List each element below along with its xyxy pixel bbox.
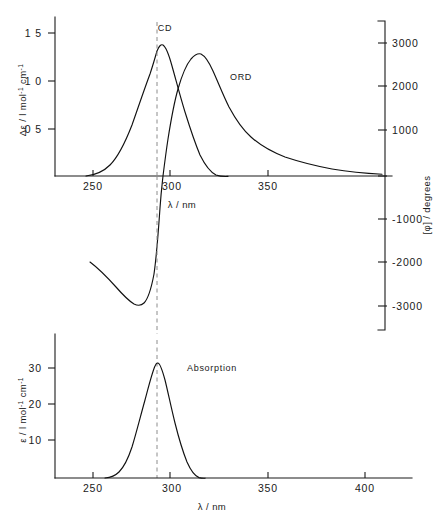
bottom-left-tick-label-10: 10 — [29, 434, 42, 446]
bottom-left-axis-title-main: ε / l mol — [17, 407, 28, 443]
top-x-axis-title: λ / nm — [168, 199, 196, 210]
bottom-left-axis-title-mid: cm — [17, 384, 28, 401]
right-tick-label-neg2000: -2000 — [392, 256, 423, 268]
right-tick-label-2000: 2000 — [392, 80, 419, 92]
ord-curve-label: ORD — [230, 72, 252, 82]
cd-curve-label: CD — [158, 23, 172, 33]
bottom-left-axis-title: ε / l mol-1 cm-1 — [17, 377, 29, 443]
right-tick-label-3000: 3000 — [392, 37, 419, 49]
bottom-x-ticks — [93, 472, 365, 478]
top-left-tick-label-1: 1 5 — [25, 27, 42, 39]
top-left-axis-title: Δε / l mol-1 cm-1 — [17, 64, 29, 136]
cd-ord-panel: 1 5 1 0 0 5 250 300 350 λ / nm Δε / l mo… — [17, 17, 433, 330]
ord-curve — [90, 54, 382, 306]
right-tick-label-1000: 1000 — [392, 124, 419, 136]
top-x-tick-label-350: 350 — [258, 180, 278, 192]
right-tick-label-neg3000: -3000 — [392, 300, 423, 312]
top-left-axis-title-main: Δε / l mol — [17, 94, 28, 137]
top-left-axis-title-mid: cm — [17, 70, 28, 87]
absorption-panel: 30 20 10 250 300 350 400 λ / nm ε / l mo… — [17, 334, 413, 512]
bottom-x-axis-title: λ / nm — [198, 501, 226, 512]
right-axis-title-text: [φ] / degrees — [421, 176, 432, 235]
absorption-curve — [105, 363, 205, 478]
bottom-x-tick-label-400: 400 — [355, 482, 375, 494]
top-left-ticks — [48, 33, 55, 129]
absorption-curve-label: Absorption — [187, 363, 237, 373]
bottom-left-axis-title-sup1: -1 — [17, 400, 24, 407]
top-left-axis-title-sup1: -1 — [17, 87, 24, 94]
bottom-x-tick-label-350: 350 — [258, 482, 278, 494]
bottom-left-tick-label-30: 30 — [29, 362, 42, 374]
bottom-left-tick-label-20: 20 — [29, 398, 42, 410]
cd-curve — [86, 45, 228, 177]
top-x-ticks — [93, 170, 268, 176]
spectra-figure: 1 5 1 0 0 5 250 300 350 λ / nm Δε / l mo… — [0, 0, 438, 518]
bottom-x-tick-label-300: 300 — [162, 482, 182, 494]
right-tick-label-neg1000: -1000 — [392, 213, 423, 225]
right-axis-title: [φ] / degrees — [421, 176, 432, 235]
bottom-left-ticks — [48, 368, 55, 440]
figure-container: 1 5 1 0 0 5 250 300 350 λ / nm Δε / l mo… — [0, 0, 438, 518]
top-left-axis-title-sup2: -1 — [17, 64, 24, 71]
top-x-tick-label-250: 250 — [83, 180, 103, 192]
bottom-x-tick-label-250: 250 — [83, 482, 103, 494]
bottom-left-axis-title-sup2: -1 — [17, 377, 24, 384]
svg-text:Δε / l mol-1 cm-1: Δε / l mol-1 cm-1 — [17, 64, 29, 136]
svg-text:ε / l mol-1 cm-1: ε / l mol-1 cm-1 — [17, 377, 29, 443]
top-x-tick-label-300: 300 — [162, 180, 182, 192]
